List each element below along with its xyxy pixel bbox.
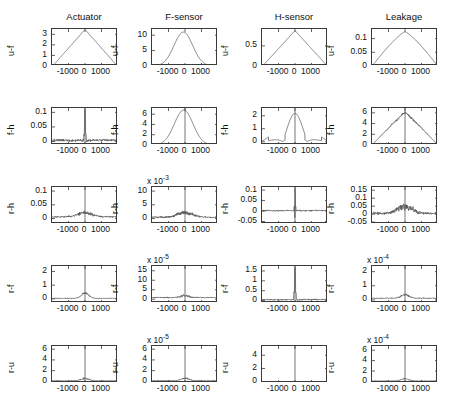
x-tick-labels-r4-c3: -100001000	[261, 304, 327, 315]
x-tick-label-2: 1000	[301, 67, 320, 76]
x-tick-labels-r2-c1: -100001000	[51, 146, 117, 157]
y-tick-label-r2-c4-1: 2	[331, 129, 367, 138]
correlation-plot-grid: ActuatorF-sensorH-sensorLeakageu-f0123-1…	[0, 0, 449, 416]
data-series	[152, 294, 217, 298]
column-title-3: H-sensor	[261, 12, 327, 22]
multiplier-base: x 10	[147, 255, 163, 265]
x-tick-label-1: 0	[82, 304, 87, 313]
y-tick-label-r1-c3-0: 0	[221, 61, 257, 70]
column-title-4: Leakage	[371, 12, 437, 22]
x-tick-label-0: -1000	[267, 304, 289, 313]
multiplier-exponent: -3	[163, 174, 169, 181]
data-series	[372, 32, 437, 65]
x-tick-label-2: 1000	[411, 304, 430, 313]
x-tick-label-2: 1000	[411, 384, 430, 393]
y-tick-label-r2-c2-1: 2	[111, 129, 147, 138]
y-tick-label-r4-c3-3: 1.5	[221, 265, 257, 274]
plot-area-r3-c1	[51, 186, 117, 223]
data-series	[52, 30, 117, 65]
y-tick-label-r1-c4-2: 0.1	[331, 33, 367, 42]
y-tick-label-r4-c4-2: 2	[331, 266, 367, 275]
data-series	[152, 211, 217, 218]
x-tick-label-0: -1000	[267, 67, 289, 76]
x-tick-labels-r1-c2: -100001000	[151, 67, 217, 78]
x-tick-labels-r3-c4: -100001000	[371, 225, 437, 236]
y-tick-label-r2-c4-3: 6	[331, 107, 367, 116]
data-series	[262, 268, 327, 300]
multiplier-label-r3-c2: x 10-3	[147, 173, 169, 186]
plot-area-r3-c2	[151, 186, 217, 223]
plot-area-r5-c2	[151, 345, 217, 382]
y-tick-label-r2-c2-0: 0	[111, 140, 147, 149]
plot-area-r2-c4	[371, 107, 437, 144]
data-series	[372, 378, 437, 381]
data-series	[372, 204, 437, 215]
x-tick-label-1: 0	[182, 67, 187, 76]
multiplier-base: x 10	[367, 255, 383, 265]
plot-area-r4-c2	[151, 265, 217, 302]
multiplier-exponent: -4	[383, 333, 389, 340]
x-tick-labels-r3-c3: -100001000	[261, 225, 327, 236]
x-tick-labels-r1-c1: -100001000	[51, 67, 117, 78]
x-tick-labels-r2-c4: -100001000	[371, 146, 437, 157]
y-tick-label-r4-c2-3: 15	[111, 265, 147, 274]
y-tick-label-r2-c1-2: 0.1	[11, 107, 47, 116]
x-tick-label-0: -1000	[157, 67, 179, 76]
x-tick-label-1: 0	[182, 384, 187, 393]
x-tick-label-0: -1000	[57, 146, 79, 155]
y-tick-label-r5-c1-2: 4	[11, 354, 47, 363]
x-tick-labels-r1-c3: -100001000	[261, 67, 327, 78]
data-series	[372, 112, 437, 144]
x-tick-label-2: 1000	[191, 146, 210, 155]
y-tick-label-r1-c2-1: 5	[111, 45, 147, 54]
y-tick-label-r5-c3-2: 4	[221, 350, 257, 359]
multiplier-base: x 10	[147, 176, 163, 186]
x-tick-label-2: 1000	[91, 146, 110, 155]
y-tick-label-r3-c2-0: 0	[111, 213, 147, 222]
y-tick-label-r5-c2-0: 0	[111, 376, 147, 385]
x-tick-label-2: 1000	[191, 304, 210, 313]
x-tick-label-1: 0	[182, 225, 187, 234]
x-tick-label-0: -1000	[377, 225, 399, 234]
x-tick-labels-r3-c1: -100001000	[51, 225, 117, 236]
plot-area-r1-c4	[371, 28, 437, 65]
x-tick-label-1: 0	[82, 67, 87, 76]
plot-area-r5-c4	[371, 345, 437, 382]
x-tick-label-0: -1000	[377, 384, 399, 393]
x-tick-label-0: -1000	[157, 146, 179, 155]
x-tick-labels-r2-c2: -100001000	[151, 146, 217, 157]
data-series	[262, 190, 327, 218]
y-tick-label-r5-c1-3: 6	[11, 344, 47, 353]
x-tick-label-0: -1000	[157, 384, 179, 393]
multiplier-exponent: -4	[383, 253, 389, 260]
multiplier-label-r4-c4: x 10-4	[367, 252, 389, 265]
y-tick-label-r4-c3-0: 0	[221, 295, 257, 304]
data-series	[52, 292, 117, 298]
y-tick-label-r5-c4-2: 4	[331, 355, 367, 364]
y-tick-label-r3-c1-0: 0	[11, 213, 47, 222]
x-tick-label-2: 1000	[301, 384, 320, 393]
plot-area-r3-c4	[371, 186, 437, 223]
y-tick-label-r1-c4-0: 0	[331, 61, 367, 70]
data-series	[152, 32, 217, 65]
x-tick-label-2: 1000	[191, 384, 210, 393]
data-series	[262, 113, 327, 141]
y-tick-label-r2-c1-0: 0	[11, 136, 47, 145]
x-tick-label-2: 1000	[91, 67, 110, 76]
x-tick-label-1: 0	[402, 304, 407, 313]
x-tick-label-0: -1000	[57, 67, 79, 76]
x-tick-label-0: -1000	[267, 384, 289, 393]
x-tick-label-0: -1000	[377, 304, 399, 313]
data-series	[262, 31, 327, 65]
y-tick-label-r2-c3-1: 1	[221, 123, 257, 132]
column-title-1: Actuator	[51, 12, 117, 22]
x-tick-label-2: 1000	[301, 304, 320, 313]
x-tick-label-0: -1000	[377, 146, 399, 155]
x-tick-label-0: -1000	[57, 304, 79, 313]
x-tick-labels-r5-c1: -100001000	[51, 384, 117, 395]
multiplier-base: x 10	[367, 335, 383, 345]
x-tick-label-1: 0	[402, 67, 407, 76]
plot-area-r4-c1	[51, 265, 117, 302]
x-tick-label-1: 0	[292, 225, 297, 234]
x-tick-labels-r5-c2: -100001000	[151, 384, 217, 395]
